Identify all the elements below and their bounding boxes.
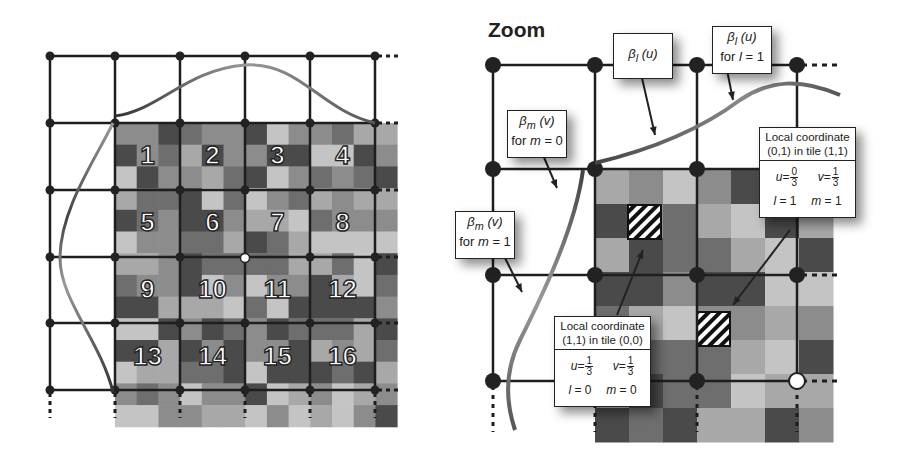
beta-symbol: β <box>727 29 734 44</box>
local-coordinate-box-tile-1-1: Local coordinate (0,1) in tile (1,1) u=0… <box>759 127 856 218</box>
beta-symbol: β <box>519 113 526 128</box>
coord-header-line2: (1,1) in tile (0,0) <box>558 333 647 347</box>
m-value: m = 0 <box>606 383 636 397</box>
local-coordinate-box-tile-0-0: Local coordinate (1,1) in tile (0,0) u=1… <box>554 316 651 407</box>
tile-number-9: 9 <box>115 274 180 305</box>
tile-number-5: 5 <box>115 207 180 238</box>
beta-argument: (v) <box>539 113 554 128</box>
v-value: v=13 <box>818 167 840 188</box>
u-value: u=03 <box>776 167 798 188</box>
tile-number-13: 13 <box>115 341 180 372</box>
coord-box-body: u=13 v=13 l = 0 m = 0 <box>555 350 650 406</box>
beta-argument: (u) <box>642 46 658 61</box>
coord-header-line2: (0,1) in tile (1,1) <box>763 144 852 158</box>
label-var: m <box>478 234 489 249</box>
tile-number-1: 1 <box>115 140 180 171</box>
tile-number-2: 2 <box>180 140 245 171</box>
l-value: l = 0 <box>568 383 591 397</box>
label-text: = 1 <box>489 234 511 249</box>
tile-number-7: 7 <box>245 207 310 238</box>
u-value: u=13 <box>571 356 593 377</box>
tile-number-4: 4 <box>310 140 375 171</box>
beta-l-label: βl (u) <box>613 33 673 79</box>
tile-number-11: 11 <box>245 274 310 305</box>
label-text: for <box>511 133 530 148</box>
l-value: l = 1 <box>773 194 796 208</box>
coord-box-header: Local coordinate (1,1) in tile (0,0) <box>555 317 650 350</box>
m-value: m = 1 <box>811 194 841 208</box>
tile-number-16: 16 <box>310 341 375 372</box>
beta-subscript: m <box>527 119 536 131</box>
beta-symbol: β <box>628 46 635 61</box>
beta-subscript: l <box>636 52 638 64</box>
beta-argument: (u) <box>741 29 757 44</box>
label-text: for <box>459 234 478 249</box>
coord-header-line1: Local coordinate <box>763 130 852 144</box>
beta-l-for-l1-label: βl (u) for l = 1 <box>712 26 772 74</box>
v-value: v=13 <box>613 356 635 377</box>
label-text: = 0 <box>541 133 563 148</box>
beta-m-for-m0-label: βm (v) for m = 0 <box>507 110 567 158</box>
tile-number-3: 3 <box>245 140 310 171</box>
coord-box-body: u=03 v=13 l = 1 m = 1 <box>760 161 855 217</box>
tile-number-8: 8 <box>310 207 375 238</box>
label-text: = 1 <box>742 49 764 64</box>
tile-number-10: 10 <box>180 274 245 305</box>
tile-number-6: 6 <box>180 207 245 238</box>
beta-argument: (v) <box>487 214 502 229</box>
coord-header-line1: Local coordinate <box>558 319 647 333</box>
tile-number-14: 14 <box>180 341 245 372</box>
tile-number-15: 15 <box>245 341 310 372</box>
beta-m-for-m1-label: βm (v) for m = 1 <box>455 211 515 259</box>
beta-symbol: β <box>467 214 474 229</box>
zoom-title: Zoom <box>488 18 545 42</box>
coord-box-header: Local coordinate (0,1) in tile (1,1) <box>760 128 855 161</box>
tile-number-12: 12 <box>310 274 375 305</box>
beta-subscript: l <box>735 35 737 47</box>
beta-subscript: m <box>475 220 484 232</box>
label-var: m <box>530 133 541 148</box>
label-text: for <box>720 49 739 64</box>
